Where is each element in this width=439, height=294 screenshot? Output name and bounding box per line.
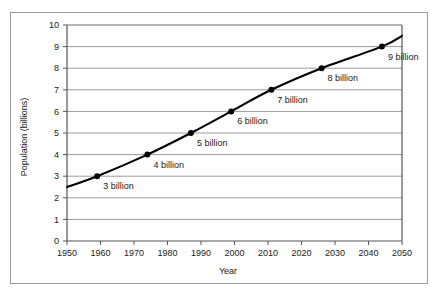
- x-tick-label-2000: 2000: [224, 248, 244, 258]
- data-point-labels: 3 billion4 billion5 billion6 billion7 bi…: [103, 52, 418, 192]
- y-tick-label-2: 2: [54, 193, 59, 203]
- chart-plot-area: 012345678910 195019601970198019902000201…: [0, 0, 439, 294]
- x-axis-ticks: 1950196019701980199020002010202020302040…: [57, 241, 412, 258]
- population-growth-chart: Population (billions) Year 012345678910 …: [0, 0, 439, 294]
- y-tick-label-0: 0: [54, 236, 59, 246]
- x-tick-label-2020: 2020: [291, 248, 311, 258]
- label-7-billion: 7 billion: [277, 95, 308, 105]
- marker-7-billion: [268, 87, 274, 93]
- y-tick-label-7: 7: [54, 85, 59, 95]
- label-3-billion: 3 billion: [103, 181, 134, 191]
- marker-6-billion: [228, 108, 234, 114]
- label-9-billion: 9 billion: [388, 52, 419, 62]
- y-tick-label-9: 9: [54, 42, 59, 52]
- marker-8-billion: [319, 65, 325, 71]
- x-tick-label-2030: 2030: [325, 248, 345, 258]
- marker-3-billion: [94, 173, 100, 179]
- x-tick-label-1990: 1990: [191, 248, 211, 258]
- x-tick-label-1980: 1980: [157, 248, 177, 258]
- x-tick-label-2040: 2040: [358, 248, 378, 258]
- x-tick-label-2010: 2010: [258, 248, 278, 258]
- label-4-billion: 4 billion: [153, 160, 184, 170]
- y-tick-label-10: 10: [49, 20, 59, 30]
- y-tick-label-1: 1: [54, 215, 59, 225]
- y-tick-label-3: 3: [54, 171, 59, 181]
- y-tick-label-4: 4: [54, 150, 59, 160]
- label-8-billion: 8 billion: [328, 73, 359, 83]
- y-tick-label-8: 8: [54, 63, 59, 73]
- label-6-billion: 6 billion: [237, 116, 268, 126]
- y-tick-label-5: 5: [54, 128, 59, 138]
- y-axis-ticks: 012345678910: [49, 20, 67, 246]
- x-tick-label-1970: 1970: [124, 248, 144, 258]
- marker-4-billion: [144, 152, 150, 158]
- marker-5-billion: [188, 130, 194, 136]
- x-tick-label-1960: 1960: [90, 248, 110, 258]
- x-tick-label-1950: 1950: [57, 248, 77, 258]
- marker-9-billion: [379, 44, 385, 50]
- y-tick-label-6: 6: [54, 107, 59, 117]
- x-tick-label-2050: 2050: [392, 248, 412, 258]
- label-5-billion: 5 billion: [197, 138, 228, 148]
